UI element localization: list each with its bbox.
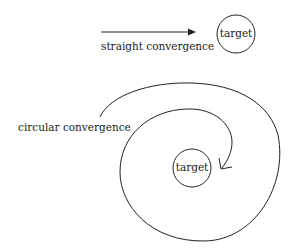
circular-convergence-group: circular convergence target xyxy=(18,83,280,241)
straight-convergence-group: straight convergence target xyxy=(101,15,255,53)
circular-target-label: target xyxy=(176,161,209,173)
convergence-diagram: straight convergence target circular con… xyxy=(0,0,295,252)
straight-convergence-label: straight convergence xyxy=(101,40,214,52)
straight-target-label: target xyxy=(220,27,253,39)
straight-arrow-head-icon xyxy=(188,29,196,36)
circular-convergence-label: circular convergence xyxy=(18,121,131,133)
